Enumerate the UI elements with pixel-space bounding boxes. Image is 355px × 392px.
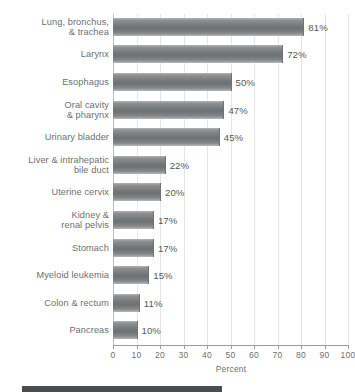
- bar-value-label: 17%: [158, 214, 178, 225]
- x-tick-90: [325, 345, 326, 349]
- x-axis-title: Percent: [113, 364, 349, 374]
- category-label: Larynx: [4, 49, 109, 59]
- x-tick-label: 70: [273, 350, 283, 360]
- bar-value-label: 17%: [158, 242, 178, 253]
- bar: [113, 156, 166, 174]
- bar-row: Myeloid leukemia15%: [0, 262, 354, 287]
- bar: [113, 239, 154, 257]
- category-label: Stomach: [4, 242, 109, 252]
- bar-row: Pancreas10%: [0, 318, 354, 343]
- x-tick-label: 20: [155, 350, 165, 360]
- x-tick-60: [254, 345, 255, 349]
- bar: [113, 45, 283, 63]
- bar-row: Larynx72%: [0, 42, 354, 67]
- bar: [113, 211, 154, 229]
- x-tick-label: 90: [320, 350, 330, 360]
- category-label: Esophagus: [4, 77, 109, 87]
- bar-value-label: 15%: [153, 270, 173, 281]
- x-tick-label: 60: [249, 350, 259, 360]
- category-label: Pancreas: [4, 325, 109, 335]
- x-tick-label: 80: [296, 350, 306, 360]
- bar-value-label: 72%: [287, 49, 307, 60]
- bar: [113, 266, 149, 284]
- category-label: Lung, bronchus, & trachea: [4, 16, 109, 37]
- category-label: Liver & intrahepatic bile duct: [4, 154, 109, 175]
- bar: [113, 321, 138, 339]
- bar-value-label: 10%: [142, 325, 162, 336]
- x-tick-label: 10: [132, 350, 142, 360]
- x-tick-label: 30: [179, 350, 189, 360]
- x-tick-50: [231, 345, 232, 349]
- x-tick-label: 50: [226, 350, 236, 360]
- bar-row: Urinary bladder45%: [0, 124, 354, 149]
- bar: [113, 183, 161, 201]
- bar: [113, 101, 224, 119]
- bar-value-label: 11%: [144, 297, 163, 308]
- bar: [113, 73, 232, 91]
- category-label: Urinary bladder: [4, 132, 109, 142]
- bar-row: Esophagus50%: [0, 69, 354, 94]
- bar-value-label: 50%: [236, 76, 256, 87]
- bar-value-label: 81%: [308, 21, 328, 32]
- bar-value-label: 47%: [228, 104, 248, 115]
- x-tick-label: 100: [341, 350, 355, 360]
- x-tick-80: [301, 345, 302, 349]
- x-tick-0: [113, 345, 114, 349]
- bar: [113, 18, 304, 36]
- x-tick-100: [348, 345, 349, 349]
- x-tick-70: [278, 345, 279, 349]
- bar-row: Liver & intrahepatic bile duct22%: [0, 152, 354, 177]
- x-tick-10: [137, 345, 138, 349]
- bar: [113, 294, 140, 312]
- category-label: Kidney & renal pelvis: [4, 210, 109, 231]
- x-tick-30: [184, 345, 185, 349]
- category-label: Oral cavity & pharynx: [4, 99, 109, 120]
- bar-row: Stomach17%: [0, 235, 354, 260]
- bar-row: Colon & rectum11%: [0, 290, 354, 315]
- x-tick-label: 0: [111, 350, 116, 360]
- bar-row: Lung, bronchus, & trachea81%: [0, 14, 354, 39]
- category-label: Uterine cervix: [4, 187, 109, 197]
- bar-row: Oral cavity & pharynx47%: [0, 97, 354, 122]
- x-tick-label: 40: [202, 350, 212, 360]
- bar-value-label: 45%: [224, 132, 244, 143]
- bar-row: Kidney & renal pelvis17%: [0, 207, 354, 232]
- bar: [113, 128, 220, 146]
- x-tick-40: [207, 345, 208, 349]
- bar-row: Uterine cervix20%: [0, 180, 354, 205]
- category-label: Myeloid leukemia: [4, 270, 109, 280]
- x-tick-20: [160, 345, 161, 349]
- bar-value-label: 20%: [165, 187, 185, 198]
- bar-value-label: 22%: [170, 159, 190, 170]
- bottom-cropped-band: [22, 386, 222, 392]
- category-label: Colon & rectum: [4, 298, 109, 308]
